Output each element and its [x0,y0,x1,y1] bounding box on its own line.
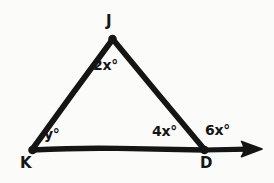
angle-label-at-D-interior: 4x° [152,124,177,138]
vertex-dot-D [200,146,209,155]
vertex-dot-K [28,146,37,155]
ray-arrowhead-icon [242,141,263,156]
angle-label-at-D-exterior: 6x° [205,123,230,137]
vertex-label-D: D [200,156,212,171]
vertex-dot-J [108,35,117,44]
angle-label-at-K: y° [44,127,60,141]
ray-segment-D-to-tip [204,149,249,150]
vertex-label-J: J [106,14,112,29]
angle-label-at-J: 2x° [93,58,118,72]
vertex-label-K: K [20,156,32,171]
geometry-figure [0,0,274,183]
segment-KD [32,148,204,150]
